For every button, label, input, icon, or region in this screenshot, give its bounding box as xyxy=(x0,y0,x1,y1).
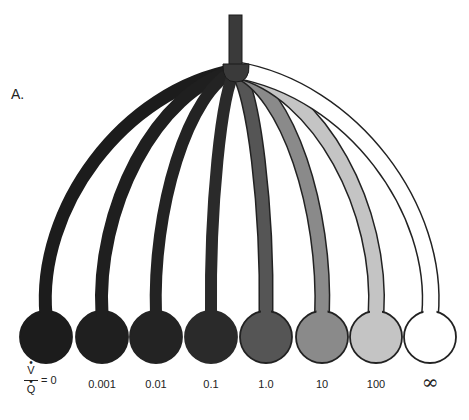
branch-joint xyxy=(317,309,328,317)
branch-joint xyxy=(41,309,52,317)
branch xyxy=(236,70,266,315)
ratio-label: 1.0 xyxy=(258,378,273,390)
ratio-label: 10 xyxy=(316,378,328,390)
va-q-ratio-diagram xyxy=(0,0,469,420)
airway-hub xyxy=(223,64,249,82)
branch-joint xyxy=(424,309,437,317)
alveolar-unit-circle xyxy=(240,311,292,363)
ratio-label: 0.1 xyxy=(203,378,218,390)
airway-stem xyxy=(229,15,242,70)
alveolar-unit-circle xyxy=(76,311,128,363)
branch-joint xyxy=(206,309,216,317)
panel-label: A. xyxy=(11,86,24,102)
alveolar-unit-circle xyxy=(130,311,182,363)
ratio-label: 100 xyxy=(367,378,385,390)
ratio-label: 0.01 xyxy=(145,378,166,390)
fraction-equals-zero: = 0 xyxy=(41,374,57,386)
alveolar-unit-circle xyxy=(350,311,402,363)
alveolar-unit-circle xyxy=(20,311,72,363)
branch-joint xyxy=(97,309,108,317)
branch-joint xyxy=(370,309,382,317)
fraction-numerator: V xyxy=(24,364,38,376)
branch xyxy=(211,70,236,315)
alveolar-unit-circle xyxy=(296,311,348,363)
branch-joint xyxy=(151,309,161,317)
alveolar-units xyxy=(20,309,456,363)
alveolar-unit-circle xyxy=(185,311,237,363)
alveolar-branches xyxy=(45,70,430,315)
branch-joint xyxy=(261,309,271,317)
ratio-label: 0.001 xyxy=(88,378,116,390)
fraction-denominator: Q xyxy=(24,383,38,395)
ratio-label: ∞ xyxy=(422,370,439,394)
alveolar-unit-circle xyxy=(404,311,456,363)
